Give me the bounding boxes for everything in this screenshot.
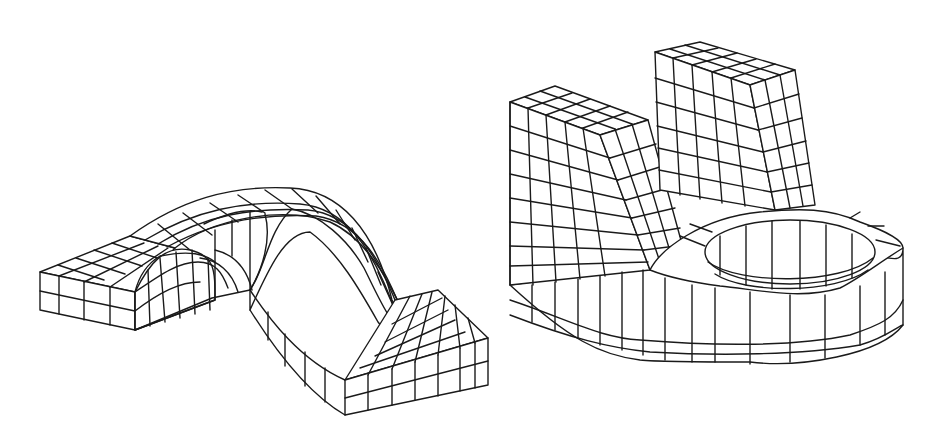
right-pillar xyxy=(655,42,815,210)
mesh-figure xyxy=(0,0,940,435)
right-flange xyxy=(345,290,488,415)
left-mesh-model xyxy=(40,188,488,415)
right-mesh-model xyxy=(510,42,903,364)
arch-descent-face xyxy=(250,290,345,415)
arch xyxy=(130,188,415,340)
figure-canvas xyxy=(0,0,940,435)
